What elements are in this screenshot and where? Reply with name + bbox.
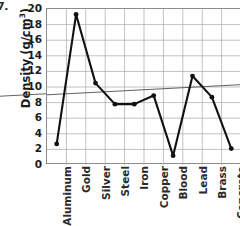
data-point-marker [171,153,176,158]
data-point-marker [113,102,118,107]
x-axis-category-label: Concrete [235,166,240,219]
data-point-marker [54,142,59,147]
data-point-marker [210,95,215,100]
density-line-chart-figure: 7. Density (g/cm3) 20181614121086420 Alu… [0,0,240,226]
x-axis-category-label: Blood [177,166,191,200]
x-axis-category-label: Lead [197,166,211,194]
trend-line-overflow-svg [0,8,46,164]
x-axis-category-label: Silver [100,166,114,200]
plot-svg [47,9,240,165]
trend-line-left [0,94,46,96]
data-point-marker [74,12,79,17]
x-axis-category-labels: AluminumGoldSilverSteelIronCopperBloodLe… [46,166,240,226]
x-axis-category-label: Brass [216,166,230,199]
plot-area [46,8,240,164]
data-point-marker [190,74,195,79]
data-point-marker [151,93,156,98]
x-axis-category-label: Gold [80,166,94,193]
trendline-left-overflow [0,8,46,164]
data-point-marker [229,146,234,151]
trend-line [47,85,240,95]
x-axis-category-label: Aluminum [61,166,75,226]
x-axis-category-label: Copper [158,166,172,208]
data-point-marker [132,102,137,107]
x-axis-category-label: Steel [119,166,133,196]
data-point-marker [93,81,98,86]
x-axis-category-label: Iron [138,166,152,190]
